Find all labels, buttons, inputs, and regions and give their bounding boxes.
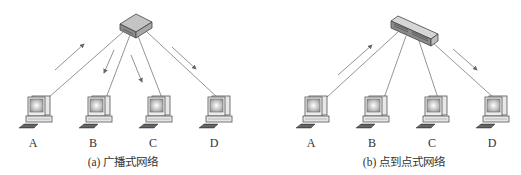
node-label-b: B	[89, 136, 97, 151]
p2p-arrows	[338, 45, 477, 75]
computer-B-icon	[356, 96, 389, 128]
arrow-to-D-icon	[172, 47, 196, 69]
node-label-d: D	[210, 136, 219, 151]
node-label-c: C	[149, 136, 157, 151]
broadcast-links	[48, 32, 218, 98]
arrow-to-D-icon	[453, 49, 477, 70]
computer-D-icon	[199, 96, 232, 128]
computer-C-icon	[139, 96, 172, 128]
computer-A-icon	[296, 96, 329, 128]
arrow-from-A-icon	[55, 44, 84, 70]
arrow-to-C-icon	[131, 55, 142, 82]
node-label-d: D	[488, 136, 497, 151]
node-label-a: A	[29, 136, 38, 151]
computer-C-icon	[416, 96, 449, 128]
computer-B-icon	[79, 96, 112, 128]
node-label-a: A	[307, 136, 316, 151]
broadcast-network	[19, 14, 232, 128]
caption-broadcast: (a) 广播式网络	[88, 153, 159, 169]
computer-A-icon	[19, 96, 52, 128]
switch-icon	[391, 16, 438, 46]
arrow-to-B-icon	[104, 50, 114, 73]
caption-point-to-point: (b) 点到点式网络	[363, 153, 445, 169]
node-label-c: C	[428, 136, 436, 151]
network-diagrams	[0, 0, 521, 175]
hub-icon	[120, 14, 152, 38]
broadcast-arrows	[55, 44, 196, 82]
computer-D-icon	[476, 96, 509, 128]
node-label-b: B	[368, 136, 376, 151]
point-to-point-network	[296, 16, 509, 128]
p2p-links	[326, 32, 494, 98]
